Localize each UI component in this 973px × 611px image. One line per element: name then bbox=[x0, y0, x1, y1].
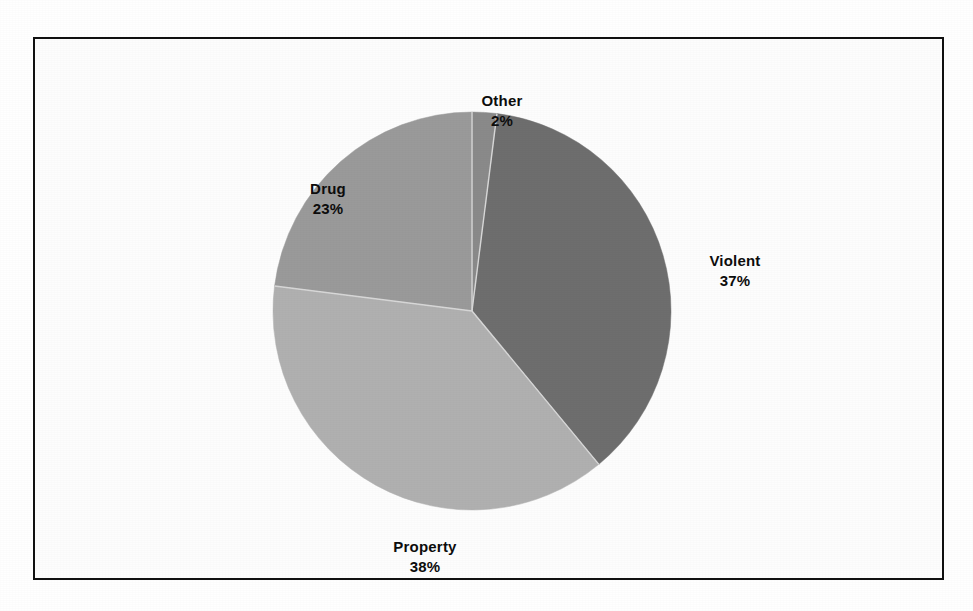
pie-label-drug-name: Drug bbox=[263, 179, 393, 199]
figure-frame: Other 2% Drug 23% Violent 37% Property 3… bbox=[33, 37, 944, 580]
pie-label-drug: Drug 23% bbox=[263, 179, 393, 219]
pie-label-property-value: 38% bbox=[345, 557, 505, 577]
pie-label-violent-name: Violent bbox=[665, 251, 805, 271]
pie-label-drug-value: 23% bbox=[263, 199, 393, 219]
pie-label-property-name: Property bbox=[345, 537, 505, 557]
pie-label-other-value: 2% bbox=[432, 111, 572, 131]
page-background: Other 2% Drug 23% Violent 37% Property 3… bbox=[0, 0, 973, 611]
pie-label-violent-value: 37% bbox=[665, 271, 805, 291]
pie-chart: Other 2% Drug 23% Violent 37% Property 3… bbox=[35, 39, 942, 578]
pie-label-other-name: Other bbox=[432, 91, 572, 111]
pie-label-violent: Violent 37% bbox=[665, 251, 805, 291]
pie-label-other: Other 2% bbox=[432, 91, 572, 131]
pie-label-property: Property 38% bbox=[345, 537, 505, 577]
